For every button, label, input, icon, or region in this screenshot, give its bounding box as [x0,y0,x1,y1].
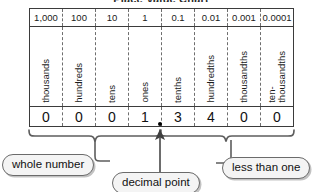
digit-cell-thousands: 0 [30,107,63,127]
place-name-label-tens: tens [107,85,117,103]
place-value-table: 1,000 100 10 1 0.1 0.01 0.001 0.0001 tho… [29,8,294,127]
place-value-chart-figure: Place Value Chart 1,000 100 10 1 0.1 0.0… [0,0,322,192]
digit-cell-tens: 0 [96,107,129,127]
callout-whole-number[interactable]: whole number [2,154,94,176]
place-value-cell-tenths: 0.1 [162,9,195,27]
callout-decimal-point[interactable]: decimal point [112,172,200,192]
digit-cell-hundreds: 0 [63,107,96,127]
place-value-cell-hundreds: 100 [63,9,96,27]
place-name-label-ten-thousandths: ten- thousandths [267,51,287,103]
place-name-label-ones: ones [140,82,150,103]
place-value-cell-ones: 1 [129,9,162,27]
place-name-cell-hundredths: hundredths [195,27,228,107]
digit-cell-ten-thousandths: 0 [261,107,294,127]
digit-cell-thousandths: 0 [228,107,261,127]
digit-cell-tenths: 3 [162,107,195,127]
place-name-cell-thousands: thousands [30,27,63,107]
place-name-label-hundreds: hundreds [74,63,84,103]
place-value-row: 1,000 100 10 1 0.1 0.01 0.001 0.0001 [30,9,294,27]
digit-cell-ones: 1 [129,107,162,127]
place-name-label-thousands: thousands [41,59,51,103]
place-value-cell-ten-thousandths: 0.0001 [261,9,294,27]
digit-cell-hundredths: 4 [195,107,228,127]
place-value-cell-hundredths: 0.01 [195,9,228,27]
decimal-point-arrow [152,128,168,174]
place-name-cell-tenths: tenths [162,27,195,107]
callout-less-than-one[interactable]: less than one [222,157,310,179]
place-name-cell-ones: ones [129,27,162,107]
place-value-cell-thousands: 1,000 [30,9,63,27]
place-value-cell-tens: 10 [96,9,129,27]
place-name-cell-hundreds: hundreds [63,27,96,107]
place-value-cell-thousandths: 0.001 [228,9,261,27]
place-name-label-hundredths: hundredths [206,55,216,103]
place-name-cell-thousandths: thousandths [228,27,261,107]
chart-title: Place Value Chart [0,0,322,2]
place-name-row: thousands hundreds tens ones tenths hund… [30,27,294,107]
place-name-label-tenths: tenths [173,77,183,103]
place-name-cell-ten-thousandths: ten- thousandths [261,27,294,107]
decimal-point-dot [158,122,162,126]
place-name-cell-tens: tens [96,27,129,107]
place-name-label-thousandths: thousandths [239,51,249,103]
